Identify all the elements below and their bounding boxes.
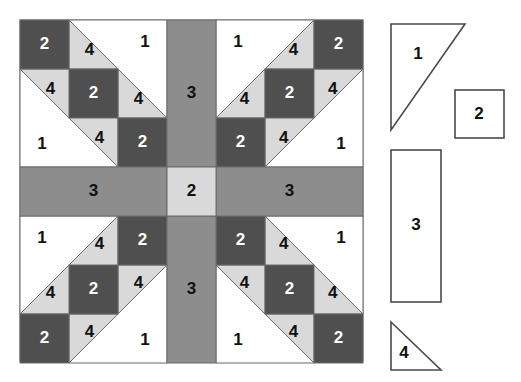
- quadrant-bottom-left-label-8: 4: [95, 234, 105, 253]
- quadrant-top-right-label-2: 4: [289, 40, 299, 59]
- quadrant-bottom-right-label-4: 4: [328, 283, 338, 302]
- quadrant-bottom-right-label-6: 4: [240, 273, 250, 292]
- quadrant-bottom-right-label-1: 2: [334, 328, 343, 347]
- quadrant-top-right-label-7: 1: [336, 134, 345, 153]
- quadrant-top-left-label-8: 4: [95, 128, 105, 147]
- quadrant-bottom-left-label-4: 4: [46, 283, 56, 302]
- quadrant-bottom-right-label-3: 1: [233, 330, 242, 349]
- bar-right-label: 3: [285, 181, 294, 200]
- quadrant-bottom-left-label-2: 4: [85, 322, 95, 341]
- quadrant-top-left-label-3: 1: [140, 32, 149, 51]
- legend-piece-2[interactable]: 2: [455, 90, 504, 138]
- quadrant-top-right-label-4: 4: [328, 79, 338, 98]
- square-icon: [455, 90, 504, 138]
- quadrant-bottom-right-label-9: 2: [236, 230, 245, 249]
- legend-piece-3[interactable]: 3: [391, 150, 441, 302]
- quadrant-top-left-label-5: 2: [89, 83, 98, 102]
- quilt-block-diagram: 2414241422414241422414241422414241423333…: [0, 0, 521, 382]
- rectangle-tall-icon: [391, 150, 441, 302]
- quadrant-bottom-left-label-1: 2: [40, 328, 49, 347]
- quadrant-bottom-right-label-7: 1: [336, 228, 345, 247]
- center-square-label: 2: [187, 181, 196, 200]
- quadrant-bottom-left-label-6: 4: [134, 273, 144, 292]
- quadrant-top-right-label-1: 2: [334, 34, 343, 53]
- bar-top-label: 3: [187, 83, 196, 102]
- quadrant-top-right-label-5: 2: [285, 83, 294, 102]
- quadrant-top-right-label-8: 4: [279, 128, 289, 147]
- quilt-block: 2414241422414241422414241422414241423333…: [20, 20, 363, 363]
- quadrant-top-right-label-9: 2: [236, 132, 245, 151]
- quadrant-top-left-label-7: 1: [37, 134, 46, 153]
- quadrant-bottom-left-label-9: 2: [138, 230, 147, 249]
- bar-bottom-label: 3: [187, 279, 196, 298]
- quadrant-top-left-label-9: 2: [138, 132, 147, 151]
- quadrant-bottom-right-label-8: 4: [279, 234, 289, 253]
- quadrant-bottom-left-label-3: 1: [140, 330, 149, 349]
- quadrant-top-left-label-4: 4: [46, 79, 56, 98]
- quadrant-bottom-right-label-5: 2: [285, 279, 294, 298]
- quadrant-bottom-left-label-7: 1: [37, 228, 46, 247]
- quadrant-top-left-label-6: 4: [134, 89, 144, 108]
- quadrant-bottom-right-label-2: 4: [289, 322, 299, 341]
- bar-left-label: 3: [89, 181, 98, 200]
- quadrant-top-right-label-3: 1: [233, 32, 242, 51]
- quadrant-top-left-label-2: 4: [85, 40, 95, 59]
- quadrant-bottom-left-label-5: 2: [89, 279, 98, 298]
- quadrant-top-right-label-6: 4: [240, 89, 250, 108]
- quadrant-top-left-label-1: 2: [40, 34, 49, 53]
